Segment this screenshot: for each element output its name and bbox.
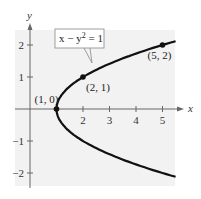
x-tick-label: 2	[80, 114, 86, 126]
data-point	[54, 106, 60, 112]
annotation-text: x − y2 = 1	[59, 31, 103, 44]
annotation-main: x − y	[59, 32, 82, 44]
x-tick-label: 5	[160, 114, 166, 126]
parabola-chart: xy2345−2−112 (1, 0)(2, 1)(5, 2) x − y2 =…	[0, 0, 201, 199]
x-tick-label: 3	[107, 114, 113, 126]
x-axis-arrow-icon	[177, 107, 184, 112]
y-tick-label: −2	[12, 167, 24, 179]
y-tick-label: 1	[19, 71, 25, 83]
y-axis-arrow-icon	[28, 23, 33, 30]
y-tick-label: −1	[12, 135, 24, 147]
point-label: (1, 0)	[35, 93, 59, 106]
y-axis-label: y	[26, 9, 32, 21]
x-tick-label: 4	[133, 114, 139, 126]
data-point	[160, 42, 166, 48]
annotation-tail: = 1	[86, 32, 103, 44]
data-point	[80, 74, 86, 80]
y-tick-label: 2	[19, 39, 25, 51]
x-axis-label: x	[187, 102, 193, 114]
point-label: (2, 1)	[86, 81, 110, 94]
point-label: (5, 2)	[148, 49, 172, 62]
